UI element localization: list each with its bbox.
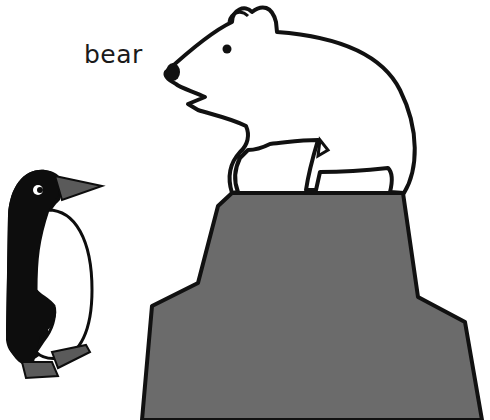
polar-bear-figure — [165, 7, 414, 193]
bear-nose — [166, 63, 180, 81]
illustration-scene: bear — [0, 0, 490, 420]
penguin-figure — [6, 170, 102, 378]
rock-figure — [142, 193, 482, 420]
penguin-eye — [37, 187, 43, 193]
bear-eye — [223, 45, 232, 54]
illustration-svg — [0, 0, 490, 420]
